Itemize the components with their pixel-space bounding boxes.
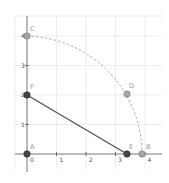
point-D-label: D bbox=[129, 82, 134, 90]
x-tick-3: 3 bbox=[118, 156, 122, 163]
x-tick-labels: 0 1 2 3 4 bbox=[30, 156, 152, 163]
x-tick-4: 4 bbox=[148, 156, 152, 163]
point-C[interactable]: C bbox=[24, 25, 35, 39]
grid bbox=[15, 16, 162, 170]
point-B-label: B bbox=[146, 143, 150, 151]
point-F-label: F bbox=[30, 83, 34, 91]
geometry-canvas[interactable]: 0 1 2 3 4 1 2 3 4 C D F A E B bbox=[0, 0, 169, 183]
x-tick-1: 1 bbox=[60, 156, 64, 163]
y-tick-1: 1 bbox=[21, 121, 25, 128]
y-tick-3: 3 bbox=[21, 62, 25, 69]
point-C-label: C bbox=[30, 25, 35, 33]
axes bbox=[15, 16, 162, 172]
point-F[interactable]: F bbox=[24, 83, 34, 98]
x-tick-0: 0 bbox=[30, 156, 34, 163]
y-tick-labels: 1 2 3 4 bbox=[21, 32, 25, 128]
point-E-label: E bbox=[129, 143, 133, 151]
point-A-label: A bbox=[30, 143, 35, 151]
point-E[interactable]: E bbox=[124, 143, 133, 157]
x-tick-2: 2 bbox=[89, 156, 93, 163]
